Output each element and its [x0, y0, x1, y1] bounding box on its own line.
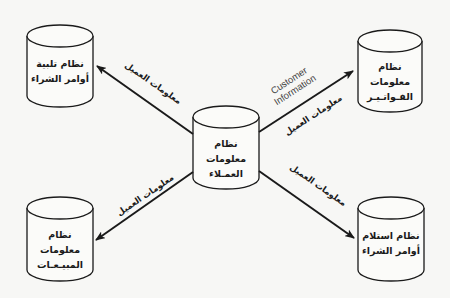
node-bottom-right-line2: أوامر الشراء: [358, 243, 424, 258]
node-label-top-left: نظام تلبية أوامر الشراء: [27, 56, 93, 86]
node-bottom-left-line2: المبيـعـات: [27, 257, 93, 272]
node-label-top-right: نظام معلومات الفـواتـيـر: [357, 59, 423, 104]
node-label-bottom-left: نظام معلومات المبيـعـات: [27, 227, 93, 272]
node-top-left-line2: أوامر الشراء: [27, 71, 93, 86]
node-label-bottom-right: نظام استلام أوامر الشراء: [358, 228, 424, 258]
node-center-line2: العمـلاء: [193, 166, 259, 181]
node-label-center: نظام معلومات العمـلاء: [193, 136, 259, 181]
node-bottom-left-line1: نظام معلومات: [27, 227, 93, 257]
arrow-to-bottom-left: [96, 172, 193, 240]
node-top-right-line2: الفـواتـيـر: [357, 89, 423, 104]
node-center-line1: نظام معلومات: [193, 136, 259, 166]
node-bottom-right-line1: نظام استلام: [358, 228, 424, 243]
node-top-right-line1: نظام معلومات: [357, 59, 423, 89]
node-top-left-line1: نظام تلبية: [27, 56, 93, 71]
